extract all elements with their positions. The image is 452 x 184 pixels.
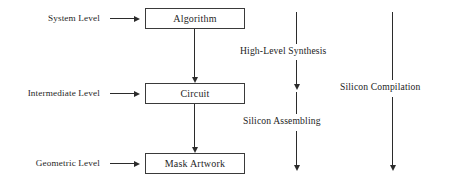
arrow-right-icon-intermediate <box>110 89 140 98</box>
box-algorithm[interactable]: Algorithm <box>145 8 245 29</box>
arrow-right-icon-geometric <box>110 159 140 168</box>
box-circuit[interactable]: Circuit <box>145 83 245 104</box>
arrow-down-icon-silicon-compilation <box>388 97 397 171</box>
diagram-canvas: System Level Intermediate Level Geometri… <box>0 0 452 184</box>
level-label-system: System Level <box>12 13 100 24</box>
box-circuit-label: Circuit <box>180 88 209 100</box>
box-mask-artwork[interactable]: Mask Artwork <box>145 153 245 174</box>
level-label-geometric: Geometric Level <box>9 158 100 169</box>
arrow-down-icon-circuit-to-mask <box>190 104 199 153</box>
flow-line-silicon-compilation-upper <box>392 12 393 80</box>
flow-label-silicon-assembling: Silicon Assembling <box>243 115 321 127</box>
flow-line-silicon-assembling-upper <box>296 92 297 114</box>
arrow-down-icon-algorithm-to-circuit <box>190 29 199 83</box>
arrow-down-icon-silicon-assembling <box>292 131 301 171</box>
box-mask-artwork-label: Mask Artwork <box>165 158 225 170</box>
arrow-right-icon-system <box>110 14 140 23</box>
flow-label-high-level-synthesis: High-Level Synthesis <box>240 45 326 57</box>
arrow-down-icon-high-level-synthesis <box>292 60 301 90</box>
box-algorithm-label: Algorithm <box>173 13 216 25</box>
flow-label-silicon-compilation: Silicon Compilation <box>340 81 420 93</box>
level-label-intermediate: Intermediate Level <box>5 88 100 99</box>
flow-line-high-level-synthesis-upper <box>296 12 297 44</box>
